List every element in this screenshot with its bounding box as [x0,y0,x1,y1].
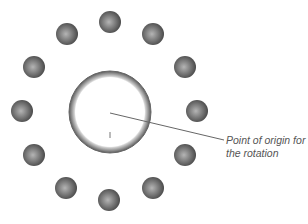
orbit-ball [99,11,121,33]
orbit-ball [56,23,78,45]
label-line-1: Point of origin for [226,134,305,147]
orbit-ball [23,144,45,166]
orbit-ball [55,177,77,199]
origin-label: Point of origin for the rotation [226,134,305,160]
orbit-ball [11,100,33,122]
orbit-ball [186,100,208,122]
orbit-ball [174,144,196,166]
label-line-2: the rotation [226,147,305,160]
orbit-ball [23,56,45,78]
orbit-ball [174,56,196,78]
orbit-ball [98,189,120,211]
rotation-diagram [0,0,308,224]
center-ring [69,71,151,153]
orbit-ball [142,177,164,199]
orbit-ball [142,23,164,45]
